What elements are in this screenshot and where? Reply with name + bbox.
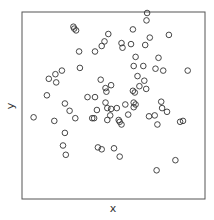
- scatter-chart: x y: [0, 0, 214, 220]
- y-axis-label: y: [4, 102, 17, 109]
- x-axis-label: x: [110, 202, 117, 215]
- plot-frame: [22, 12, 205, 199]
